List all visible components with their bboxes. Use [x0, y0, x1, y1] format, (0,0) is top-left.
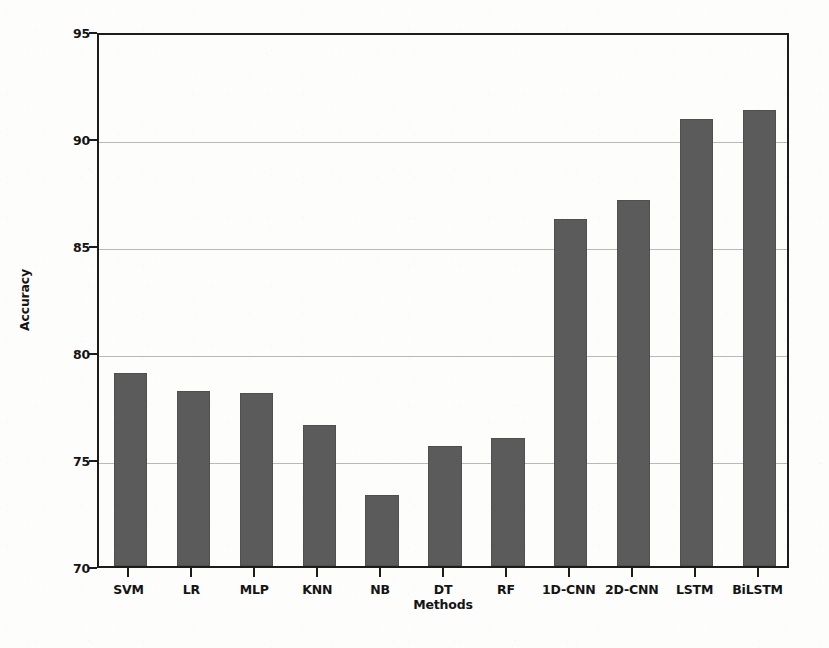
- x-axis-tick-label: SVM: [113, 582, 144, 597]
- x-axis-tick-mark: [379, 568, 381, 577]
- y-axis-tick-label: 75: [73, 454, 90, 469]
- y-axis-tick-labels: 707580859095: [58, 0, 90, 648]
- x-axis-tick-label: LR: [183, 582, 200, 597]
- x-axis-tick-mark: [442, 568, 444, 577]
- bar: [365, 495, 398, 566]
- bar: [743, 110, 776, 566]
- x-axis-tick-label: KNN: [302, 582, 332, 597]
- x-axis-tick-label: MLP: [240, 582, 269, 597]
- x-axis-tick-mark: [694, 568, 696, 577]
- bar: [491, 438, 524, 566]
- x-axis-tick-mark: [190, 568, 192, 577]
- x-axis-tick-label: 1D-CNN: [542, 582, 595, 597]
- x-axis-tick-label: RF: [497, 582, 515, 597]
- bar: [177, 391, 210, 566]
- y-axis-tick-mark: [89, 353, 97, 355]
- bar: [554, 219, 587, 566]
- x-axis-tick-label: 2D-CNN: [605, 582, 658, 597]
- y-axis-tick-mark: [89, 139, 97, 141]
- y-axis-tick-label: 90: [73, 133, 90, 148]
- y-axis-tick-mark: [89, 246, 97, 248]
- y-axis-tick-mark: [89, 567, 97, 569]
- x-axis-tick-mark: [757, 568, 759, 577]
- y-axis-tick-mark: [89, 32, 97, 34]
- bar: [428, 446, 461, 566]
- x-axis-title: Methods: [413, 597, 472, 612]
- y-axis-tick-label: 70: [73, 561, 90, 576]
- plot-area: [97, 33, 789, 568]
- x-axis-tick-mark: [505, 568, 507, 577]
- x-axis-tick-label: LSTM: [676, 582, 713, 597]
- bars-layer: [99, 35, 787, 566]
- x-axis-tick-label: NB: [370, 582, 390, 597]
- x-axis-tick-mark: [253, 568, 255, 577]
- y-axis-tick-label: 95: [73, 26, 90, 41]
- y-axis-tick-label: 85: [73, 240, 90, 255]
- bar-chart-figure: 707580859095 Accuracy SVMLRMLPKNNNBDTRF1…: [0, 0, 829, 648]
- x-axis-tick-mark: [316, 568, 318, 577]
- bar: [680, 119, 713, 566]
- x-axis-tick-label: BiLSTM: [732, 582, 783, 597]
- x-axis-tick-mark: [631, 568, 633, 577]
- x-axis-tick-label: DT: [434, 582, 453, 597]
- y-axis-tick-mark: [89, 460, 97, 462]
- bar: [114, 373, 147, 566]
- y-axis-title: Accuracy: [17, 269, 32, 331]
- bar: [617, 200, 650, 566]
- bar: [303, 425, 336, 566]
- x-axis-tick-mark: [568, 568, 570, 577]
- x-axis-tick-mark: [127, 568, 129, 577]
- y-axis-tick-label: 80: [73, 347, 90, 362]
- bar: [240, 393, 273, 566]
